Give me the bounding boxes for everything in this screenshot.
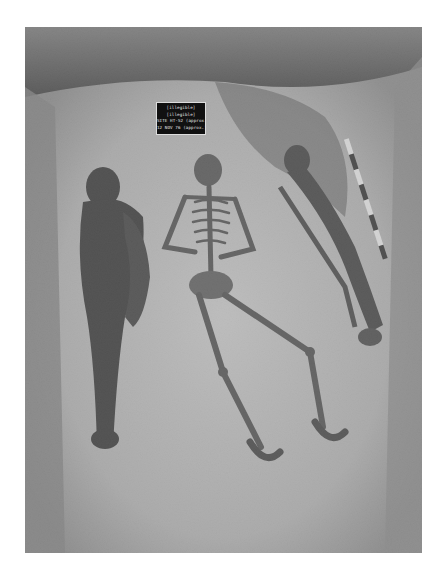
- film-grain: [25, 27, 422, 553]
- sign-line-3: SITE HT-52 (approx.): [157, 118, 205, 125]
- photo-label-sign: [illegible] [illegible] SITE HT-52 (appr…: [156, 102, 206, 135]
- sign-line-4: 12 NOV 76 (approx.): [157, 125, 205, 132]
- excavation-scene: [25, 27, 422, 553]
- excavation-photo: [illegible] [illegible] SITE HT-52 (appr…: [25, 27, 422, 553]
